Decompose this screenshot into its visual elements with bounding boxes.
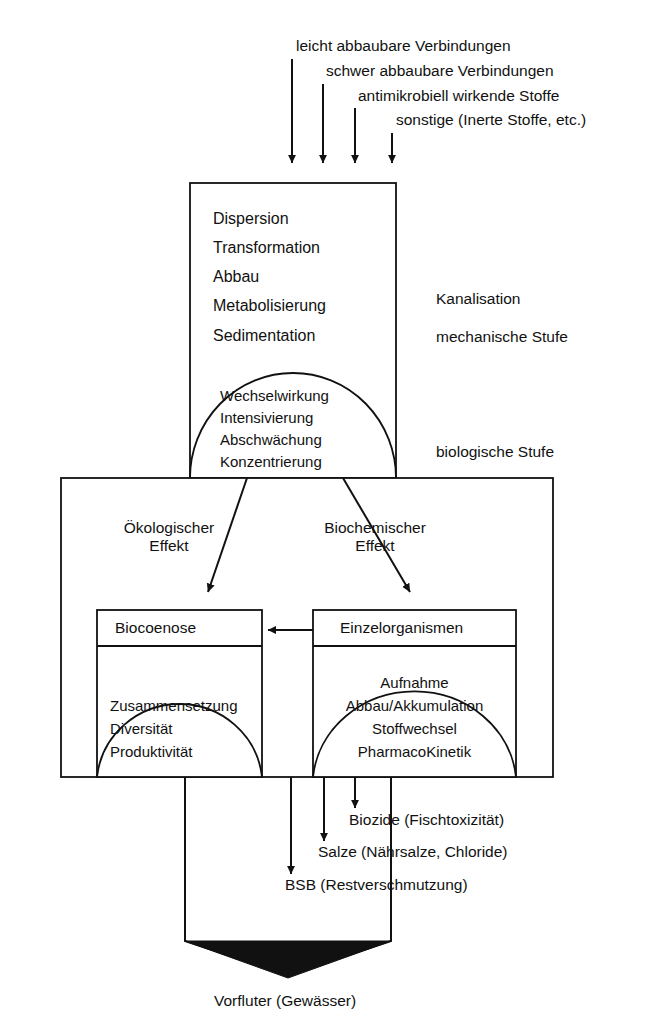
outflow-label-salze: Salze (Nährsalze, Chloride) — [318, 844, 508, 860]
outflow-label-biozide: Biozide (Fischtoxizität) — [349, 812, 504, 828]
stage-label-mechanische-stufe: mechanische Stufe — [436, 329, 568, 345]
dome-label-abschwaechung: Abschwächung — [220, 432, 322, 447]
outlet-label-vorfluter: Vorfluter (Gewässer) — [214, 993, 356, 1009]
inflow-label-3: antimikrobiell wirkende Stoffe — [358, 88, 559, 104]
organism-item-aufnahme: Aufnahme — [313, 674, 516, 692]
dome-label-konzentrierung: Konzentrierung — [220, 454, 322, 469]
effect-label-biochemical-line2: Effekt — [313, 537, 437, 555]
effect-label-ecological-line2: Effekt — [109, 537, 229, 555]
biocoenose-title: Biocoenose — [115, 620, 196, 636]
biocoenose-item-produktivitaet: Produktivität — [110, 743, 193, 761]
process-label-sedimentation: Sedimentation — [213, 328, 315, 344]
effect-label-ecological-line1: Ökologischer — [109, 519, 229, 537]
process-label-abbau: Abbau — [213, 269, 259, 285]
process-label-dispersion: Dispersion — [213, 211, 289, 227]
biocoenose-item-diversitaet: Diversität — [110, 720, 173, 738]
organism-item-pharmacokinetik: PharmacoKinetik — [313, 743, 516, 761]
inflow-label-4: sonstige (Inerte Stoffe, etc.) — [396, 112, 586, 128]
process-label-transformation: Transformation — [213, 240, 320, 256]
stage-label-kanalisation: Kanalisation — [436, 291, 520, 307]
stage-label-biologische-stufe: biologische Stufe — [436, 444, 554, 460]
effect-label-ecological: Ökologischer Effekt — [109, 519, 229, 555]
organism-item-abbau-akkumulation: Abbau/Akkumulation — [313, 697, 516, 715]
dome-label-wechselwirkung: Wechselwirkung — [220, 388, 329, 403]
diagram-page: leicht abbaubare Verbindungen schwer abb… — [0, 0, 647, 1032]
effect-label-biochemical: Biochemischer Effekt — [313, 519, 437, 555]
outflow-label-bsb: BSB (Restverschmutzung) — [285, 877, 468, 893]
inflow-label-2: schwer abbaubare Verbindungen — [326, 63, 554, 79]
einzelorganismen-title: Einzelorganismen — [340, 620, 463, 636]
process-label-metabolisierung: Metabolisierung — [213, 298, 326, 314]
effect-label-biochemical-line1: Biochemischer — [313, 519, 437, 537]
organism-item-stoffwechsel: Stoffwechsel — [313, 720, 516, 738]
outlet-funnel-fill — [185, 941, 391, 978]
inflow-label-1: leicht abbaubare Verbindungen — [296, 38, 511, 54]
dome-label-intensivierung: Intensivierung — [220, 410, 313, 425]
biocoenose-item-zusammensetzung: Zusammensetzung — [110, 697, 238, 715]
